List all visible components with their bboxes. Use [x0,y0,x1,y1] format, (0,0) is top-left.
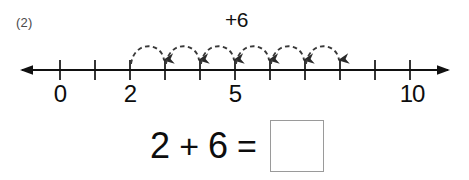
jump-arc-4 [236,46,269,64]
jump-arc-1 [131,46,164,64]
jump-arc-3 [201,46,234,64]
equation-plus-sign: + [175,129,203,163]
tick-label-0: 0 [40,82,80,106]
tick-label-2: 2 [110,82,150,106]
equation-equals-sign: = [233,129,261,163]
equation-addend-2: 6 [203,128,233,164]
left-arrow-icon [20,65,33,75]
jump-arc-6 [306,46,339,64]
equation-addend-1: 2 [145,128,175,164]
answer-input-box[interactable] [270,120,324,172]
number-line-worksheet: (2) +6 [0,0,469,180]
jump-arc-2 [166,46,199,64]
tick-label-10: 10 [392,82,432,106]
tick-label-5: 5 [215,82,255,106]
jump-arc-5 [271,46,304,64]
equation-row: 2 + 6 = [0,114,469,178]
right-arrow-icon [437,65,450,75]
